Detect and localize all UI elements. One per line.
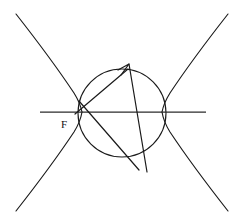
- focus-to-circle-segment: [75, 69, 128, 114]
- hyperbola-branch-upper-left: [16, 14, 82, 112]
- geometry-diagram: F: [0, 0, 243, 224]
- secondary-chord-ray: [79, 101, 139, 170]
- focus-label: F: [61, 118, 67, 130]
- hyperbola-branch-upper-right: [162, 14, 228, 112]
- focal-circle: [78, 69, 166, 157]
- hyperbola-branch-lower-left: [16, 112, 82, 211]
- figure-canvas: F: [0, 0, 243, 224]
- hyperbola-branch-lower-right: [162, 112, 228, 211]
